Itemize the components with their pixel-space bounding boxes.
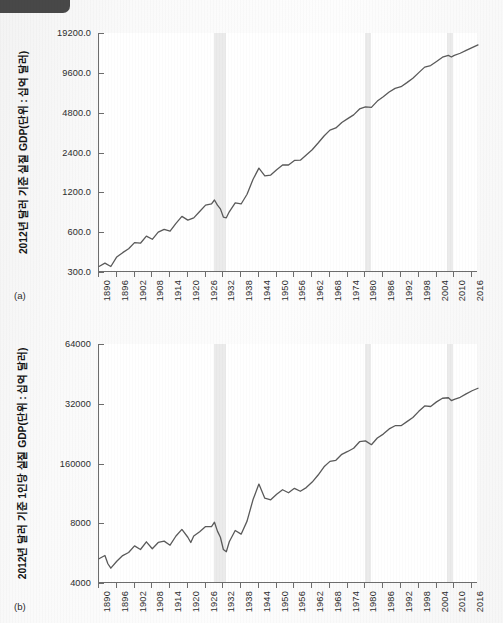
x-axis-tick-label: 1920	[191, 591, 201, 612]
x-axis-tick-label: 2016	[475, 591, 485, 612]
x-axis-tick	[276, 583, 277, 588]
y-axis-tick-label: 8000	[70, 518, 91, 528]
y-axis-tick-label: 160000	[60, 459, 91, 469]
x-axis-tick-label: 1902	[138, 591, 148, 612]
x-axis-tick	[205, 583, 206, 588]
x-axis-tick	[400, 583, 401, 588]
x-axis-tick	[471, 583, 472, 588]
x-axis-tick-label: 1890	[102, 591, 112, 612]
x-axis-tick-label: 1986	[386, 591, 396, 612]
y-axis-title: 2012년 달러 기준 1인당 실질 GDP(단위 : 십억 달러)	[14, 347, 29, 579]
x-axis-tick-label: 1944	[262, 591, 272, 612]
x-axis-tick	[347, 583, 348, 588]
x-axis-tick	[258, 583, 259, 588]
x-axis-tick-label: 1932	[226, 591, 236, 612]
x-axis-tick-label: 1938	[244, 591, 254, 612]
x-axis-tick	[187, 583, 188, 588]
x-axis-tick-label: 1998	[422, 591, 432, 612]
x-axis-tick-label: 2004	[440, 591, 450, 612]
x-axis-tick	[364, 583, 365, 588]
x-axis-tick-label: 1974	[351, 591, 361, 612]
chart-panel-b: 4000800016000032000640001890189619021908…	[0, 0, 503, 623]
x-axis-tick-label: 1926	[209, 591, 219, 612]
gdp-series-line	[99, 344, 478, 583]
x-axis-tick	[418, 583, 419, 588]
x-axis-tick	[98, 583, 99, 588]
y-axis-tick	[99, 464, 104, 465]
x-axis-tick-label: 1950	[280, 591, 290, 612]
x-axis-tick-label: 1980	[368, 591, 378, 612]
y-axis-tick-label: 4000	[70, 578, 91, 588]
x-axis-tick-label: 1896	[120, 591, 130, 612]
x-axis-tick	[169, 583, 170, 588]
x-axis-tick-label: 1962	[315, 591, 325, 612]
y-axis-tick	[99, 404, 104, 405]
y-axis-tick-label: 64000	[65, 339, 91, 349]
y-axis-tick	[99, 344, 104, 345]
x-axis-tick	[436, 583, 437, 588]
gdp-figure: 300.0600.01200.02400.04800.09600.019200.…	[0, 0, 503, 623]
plot-area	[98, 344, 477, 583]
x-axis-tick-label: 1968	[333, 591, 343, 612]
panel-tag: (b)	[14, 601, 26, 612]
x-axis-tick	[382, 583, 383, 588]
x-axis-tick-label: 1908	[155, 591, 165, 612]
x-axis-tick-label: 2010	[457, 591, 467, 612]
y-axis-tick-label: 32000	[65, 399, 91, 409]
y-axis-tick	[99, 523, 104, 524]
x-axis-tick	[293, 583, 294, 588]
clipped-ui-chip	[0, 0, 70, 13]
x-axis-tick	[151, 583, 152, 588]
x-axis-tick	[222, 583, 223, 588]
x-axis-tick	[116, 583, 117, 588]
x-axis-tick	[134, 583, 135, 588]
x-axis-tick-label: 1956	[297, 591, 307, 612]
x-axis-tick	[311, 583, 312, 588]
x-axis-tick	[453, 583, 454, 588]
x-axis-tick	[240, 583, 241, 588]
y-axis-tick	[99, 583, 104, 584]
x-axis-tick-label: 1992	[404, 591, 414, 612]
x-axis-tick	[329, 583, 330, 588]
x-axis-tick-label: 1914	[173, 591, 183, 612]
